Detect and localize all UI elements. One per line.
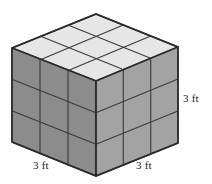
dimension-label-bottom-right: 3 ft <box>136 159 152 171</box>
cube-figure: 3 ft 3 ft 3 ft <box>0 0 212 184</box>
cube-illustration <box>0 0 212 184</box>
dimension-label-right: 3 ft <box>183 92 199 104</box>
dimension-label-bottom-left: 3 ft <box>33 159 49 171</box>
